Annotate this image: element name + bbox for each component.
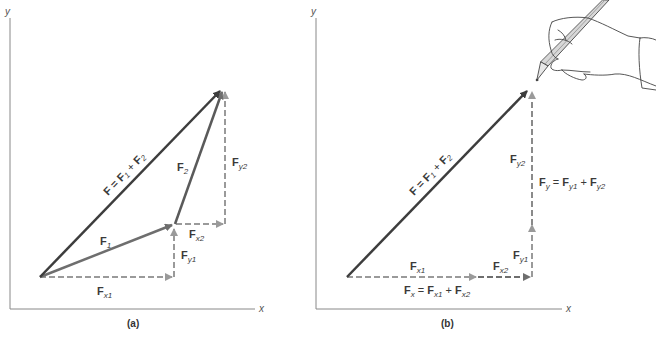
fx2-label: Fx2 xyxy=(189,228,205,243)
x-axis-label: x xyxy=(565,303,572,314)
f1-label: F1 xyxy=(100,235,111,250)
panel-a-caption: (a) xyxy=(127,318,139,329)
panel-b-caption: (b) xyxy=(441,318,454,329)
fy1-label: Fy1 xyxy=(181,249,196,264)
fy2-label: Fy2 xyxy=(510,153,526,168)
y-axis-label: y xyxy=(4,6,11,17)
vector-addition-figure: y x F = F1 + F2 F1 F2 Fx1 Fy1 Fx2 Fy2 (a… xyxy=(0,0,656,339)
fx1-label: Fx1 xyxy=(410,260,425,275)
resultant-vector xyxy=(40,91,220,277)
f1-vector xyxy=(40,225,172,277)
pencil-icon xyxy=(541,0,609,66)
fx2-label: Fx2 xyxy=(493,260,509,275)
panel-a: y x F = F1 + F2 F1 F2 Fx1 Fy1 Fx2 Fy2 (a… xyxy=(4,6,265,329)
y-axis-label: y xyxy=(310,6,317,17)
fy1-label: Fy1 xyxy=(513,249,528,264)
fy-sum-label: Fy = Fy1 + Fy2 xyxy=(539,176,606,191)
hand-pencil-illustration xyxy=(536,0,656,90)
f2-label: F2 xyxy=(177,161,189,176)
resultant-vector xyxy=(347,91,527,277)
panel-b: y x F = F1 + F2 Fx1 Fx2 Fy1 Fy2 Fx = Fx1… xyxy=(310,0,656,329)
x-axis-label: x xyxy=(258,303,265,314)
fx-sum-label: Fx = Fx1 + Fx2 xyxy=(404,284,471,299)
resultant-label: F = F1 + F2 xyxy=(101,150,149,199)
fx1-label: Fx1 xyxy=(97,285,112,300)
fy2-label: Fy2 xyxy=(232,156,248,171)
